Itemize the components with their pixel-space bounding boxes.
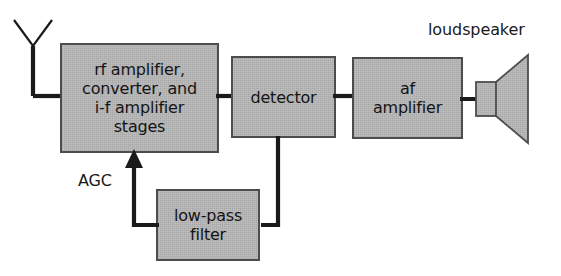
connector-detector-to-lpf [261,136,278,225]
block-rf-stages[interactable] [61,44,218,152]
annotation-agc: AGC [78,171,112,190]
block-af-amplifier[interactable] [353,58,462,138]
connector-lpf-to-rf [134,163,159,225]
antenna-icon [14,20,52,96]
block-diagram-canvas: rf amplifier, converter, and i-f amplifi… [0,0,561,276]
block-detector[interactable] [232,57,335,137]
diagram-vector-layer [0,0,561,276]
loudspeaker-icon[interactable] [476,55,528,143]
annotation-loudspeaker: loudspeaker [428,20,525,39]
block-low-pass-filter[interactable] [157,190,259,260]
